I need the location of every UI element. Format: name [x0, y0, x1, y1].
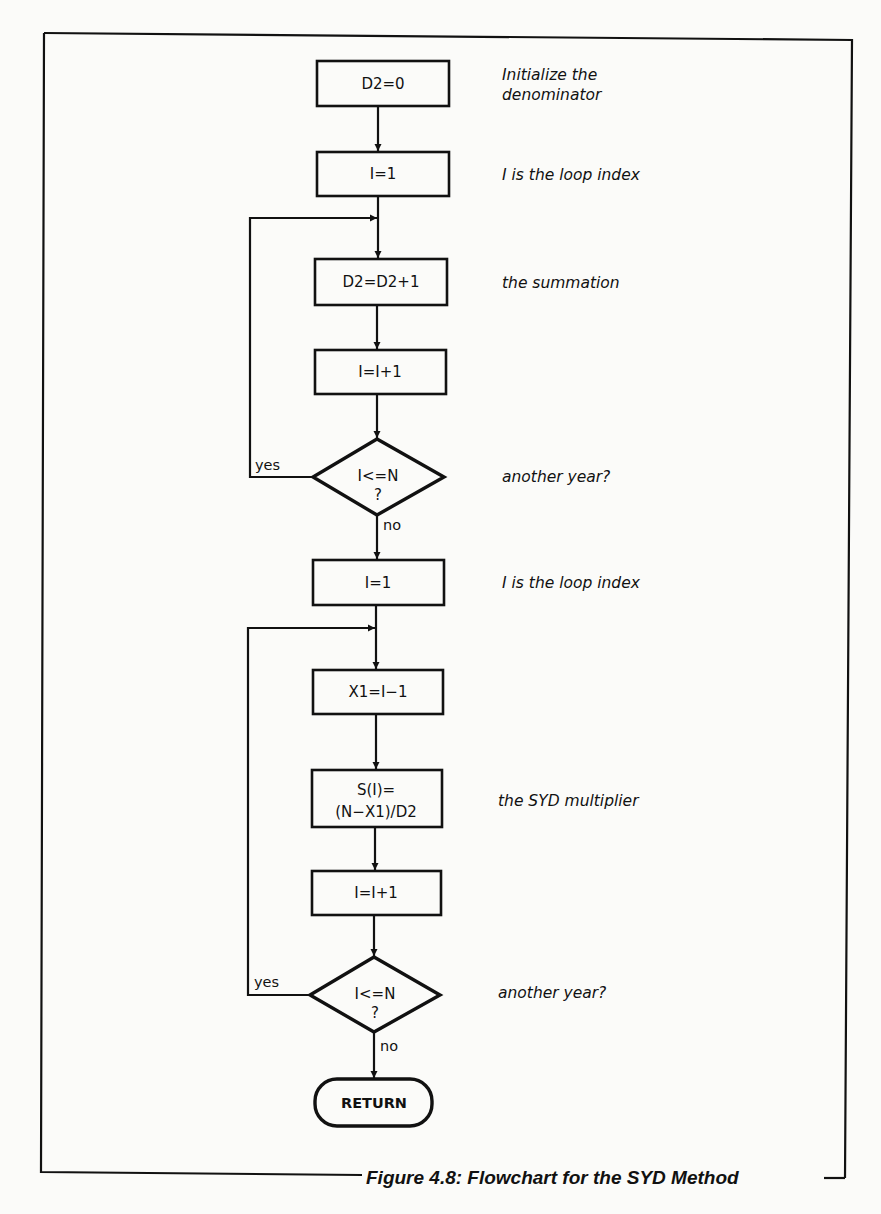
terminator-return: RETURN [315, 1079, 432, 1126]
svg-text:X1=I−1: X1=I−1 [349, 683, 408, 701]
process-box-loop-index-2: I=1 [313, 560, 444, 605]
svg-text:I<=N: I<=N [355, 985, 396, 1003]
figure-caption: Figure 4.8: Flowchart for the SYD Method [366, 1167, 739, 1188]
svg-text:D2=0: D2=0 [361, 75, 404, 93]
process-box-d2-init: D2=0 [317, 61, 449, 106]
no-label-2: no [380, 1038, 398, 1054]
process-box-syd-multiplier: S(I)= (N−X1)/D2 [312, 770, 442, 827]
svg-text:S(I)=: S(I)= [357, 781, 395, 799]
loop-back-line-1 [250, 218, 377, 477]
svg-text:D2=D2+1: D2=D2+1 [343, 273, 420, 291]
svg-text:(N−X1)/D2: (N−X1)/D2 [335, 803, 416, 821]
figure-frame [41, 33, 852, 1178]
note-denominator: denominator [502, 86, 603, 104]
svg-text:I=1: I=1 [370, 165, 397, 183]
no-label-1: no [383, 517, 401, 533]
decision-diamond-1: I<=N ? [313, 439, 444, 515]
svg-text:I<=N: I<=N [358, 467, 399, 485]
flowchart-canvas: D2=0 Initialize the denominator I=1 I is… [0, 0, 881, 1214]
note-initialize: Initialize the [502, 66, 597, 84]
note-summation: the summation [502, 274, 620, 292]
svg-text:?: ? [374, 486, 382, 504]
note-another-year-1: another year? [502, 468, 610, 486]
svg-text:I=I+1: I=I+1 [354, 884, 398, 902]
yes-label-1: yes [255, 457, 280, 473]
process-box-x1: X1=I−1 [313, 670, 443, 714]
process-box-increment-2: I=I+1 [312, 871, 441, 915]
svg-text:I=1: I=1 [365, 574, 392, 592]
svg-text:I=I+1: I=I+1 [358, 363, 402, 381]
process-box-increment-1: I=I+1 [315, 350, 446, 394]
process-box-loop-index-1: I=1 [317, 152, 449, 196]
decision-diamond-2: I<=N ? [310, 957, 440, 1032]
note-another-year-2: another year? [498, 984, 606, 1002]
svg-text:?: ? [371, 1004, 379, 1022]
note-loop-index-1: I is the loop index [502, 166, 641, 184]
svg-text:RETURN: RETURN [341, 1095, 407, 1111]
process-box-summation: D2=D2+1 [315, 259, 447, 305]
note-syd-multiplier: the SYD multiplier [498, 792, 640, 810]
yes-label-2: yes [254, 974, 279, 990]
note-loop-index-2: I is the loop index [502, 574, 641, 592]
